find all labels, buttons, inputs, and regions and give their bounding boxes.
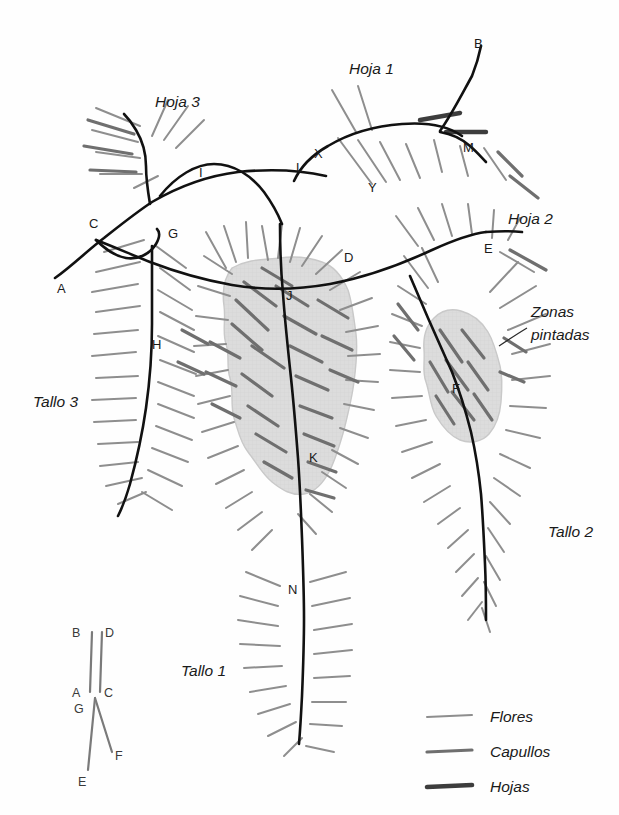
inset-label-G: G: [74, 702, 84, 716]
label-zonas-pintadas-line2: pintadas: [530, 326, 590, 343]
point-label-L: L: [296, 160, 303, 175]
label-tallo-2: Tallo 2: [548, 523, 593, 540]
point-label-F: F: [452, 381, 460, 396]
inset-label-A: A: [72, 686, 81, 700]
point-label-M: M: [463, 140, 474, 155]
inset-label-C: C: [104, 686, 113, 700]
inset-label-B: B: [72, 626, 80, 640]
point-label-I: I: [199, 165, 203, 180]
label-tallo-3: Tallo 3: [33, 393, 78, 410]
point-label-D: D: [344, 250, 353, 265]
point-label-B: B: [474, 36, 483, 51]
legend-label-capullos: Capullos: [490, 743, 551, 760]
point-label-C: C: [89, 216, 98, 231]
point-label-G: G: [168, 226, 178, 241]
legend-swatch-capullos: [427, 750, 472, 752]
inset-label-E: E: [78, 775, 86, 789]
label-zonas-pintadas-line1: Zonas: [530, 303, 574, 320]
point-label-N: N: [288, 582, 297, 597]
inset-label-D: D: [105, 626, 114, 640]
label-hoja-2: Hoja 2: [508, 210, 553, 227]
point-label-J: J: [286, 288, 293, 303]
point-label-X: X: [314, 146, 323, 161]
plant-diagram-svg: A B C D E F G H I J K L M N X Y Hoja 1 H…: [0, 0, 619, 815]
figure-canvas: A B C D E F G H I J K L M N X Y Hoja 1 H…: [0, 0, 619, 815]
legend-label-flores: Flores: [490, 708, 533, 725]
point-label-Y: Y: [368, 180, 377, 195]
label-tallo-1: Tallo 1: [181, 662, 226, 679]
inset-label-F: F: [115, 749, 123, 763]
legend-label-hojas: Hojas: [490, 778, 530, 795]
point-label-K: K: [309, 450, 318, 465]
hoja2-midrib: [486, 231, 522, 232]
legend-swatch-hojas: [427, 785, 472, 787]
label-hoja-1: Hoja 1: [349, 60, 394, 77]
point-label-E: E: [484, 241, 493, 256]
point-label-H: H: [152, 337, 161, 352]
point-label-A: A: [57, 281, 66, 296]
label-hoja-3: Hoja 3: [155, 93, 200, 110]
